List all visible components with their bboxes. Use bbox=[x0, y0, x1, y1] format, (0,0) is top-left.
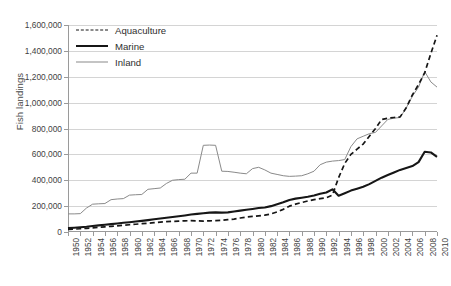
x-axis-tick-label: 1968 bbox=[183, 238, 192, 256]
x-axis-tickmark bbox=[105, 232, 106, 236]
x-axis-tickmark bbox=[117, 232, 118, 236]
x-axis-tick-label: 1952 bbox=[84, 238, 93, 256]
x-axis-tick-label: 1992 bbox=[330, 238, 339, 256]
y-axis-tick-label: 600,000 bbox=[0, 149, 62, 159]
series-line-inland bbox=[68, 72, 437, 214]
x-axis-tickmark bbox=[437, 232, 438, 236]
y-axis-tick-label: 0 bbox=[0, 227, 62, 237]
x-axis-tickmark bbox=[130, 232, 131, 236]
legend-item-marine: Marine bbox=[76, 38, 166, 54]
x-axis-tick-label: 1996 bbox=[355, 238, 364, 256]
x-axis-tick-label: 1962 bbox=[146, 238, 155, 256]
x-axis-tickmark bbox=[203, 232, 204, 236]
legend-swatch-inland-icon bbox=[76, 57, 108, 67]
fish-landings-chart: Fish landings 0200,000400,000600,000800,… bbox=[0, 0, 451, 286]
legend-label-marine: Marine bbox=[115, 41, 144, 52]
x-axis-tickmark bbox=[80, 232, 81, 236]
x-axis-tick-label: 1984 bbox=[281, 238, 290, 256]
x-axis-tickmark bbox=[154, 232, 155, 236]
x-axis-tickmark bbox=[191, 232, 192, 236]
x-axis-tickmark bbox=[425, 232, 426, 236]
x-axis-tick-label: 2010 bbox=[441, 238, 450, 256]
y-axis-tick-label: 1,000,000 bbox=[0, 98, 62, 108]
x-axis-tickmark bbox=[93, 232, 94, 236]
x-axis-tickmark bbox=[376, 232, 377, 236]
x-axis-tick-label: 1958 bbox=[121, 238, 130, 256]
x-axis-tick-label: 1998 bbox=[367, 238, 376, 256]
x-axis-tickmark bbox=[363, 232, 364, 236]
x-axis-tick-label: 1966 bbox=[170, 238, 179, 256]
x-axis-tick-label: 1986 bbox=[293, 238, 302, 256]
x-axis-tick-label: 1964 bbox=[158, 238, 167, 256]
y-axis-tick-label: 400,000 bbox=[0, 175, 62, 185]
x-axis-tickmark bbox=[302, 232, 303, 236]
x-axis-tick-label: 1976 bbox=[232, 238, 241, 256]
x-axis-tickmark bbox=[314, 232, 315, 236]
x-axis-tickmark bbox=[351, 232, 352, 236]
x-axis-tick-label: 1950 bbox=[72, 238, 81, 256]
legend-item-aquaculture: Aquaculture bbox=[76, 22, 166, 38]
x-axis-tickmark bbox=[339, 232, 340, 236]
x-axis-tickmark bbox=[289, 232, 290, 236]
x-axis-tickmark bbox=[240, 232, 241, 236]
x-axis-tickmark bbox=[388, 232, 389, 236]
x-axis-tick-label: 1972 bbox=[207, 238, 216, 256]
legend-label-aquaculture: Aquaculture bbox=[115, 25, 166, 36]
x-axis-tick-label: 1978 bbox=[244, 238, 253, 256]
x-axis-tickmark bbox=[166, 232, 167, 236]
x-axis-tickmark bbox=[68, 232, 69, 236]
x-axis-tick-label: 1974 bbox=[220, 238, 229, 256]
x-axis-tickmark bbox=[142, 232, 143, 236]
y-axis-tick-label: 1,200,000 bbox=[0, 72, 62, 82]
chart-legend: Aquaculture Marine Inland bbox=[76, 22, 166, 70]
legend-swatch-marine-icon bbox=[76, 41, 108, 51]
legend-label-inland: Inland bbox=[115, 57, 141, 68]
x-axis-tick-label: 2008 bbox=[429, 238, 438, 256]
y-axis-tick-label: 1,400,000 bbox=[0, 46, 62, 56]
legend-swatch-aquaculture-icon bbox=[76, 25, 108, 35]
x-axis-tickmark bbox=[412, 232, 413, 236]
x-axis-tick-label: 2006 bbox=[416, 238, 425, 256]
x-axis-tick-label: 1988 bbox=[306, 238, 315, 256]
x-axis-tick-label: 1960 bbox=[134, 238, 143, 256]
x-axis-tickmark bbox=[179, 232, 180, 236]
x-axis-tickmark bbox=[216, 232, 217, 236]
x-axis-tick-label: 1994 bbox=[343, 238, 352, 256]
x-axis-tick-label: 1956 bbox=[109, 238, 118, 256]
x-axis-tickmark bbox=[400, 232, 401, 236]
x-axis-tickmark bbox=[228, 232, 229, 236]
x-axis-tick-label: 1970 bbox=[195, 238, 204, 256]
x-axis-tick-label: 2004 bbox=[404, 238, 413, 256]
legend-item-inland: Inland bbox=[76, 54, 166, 70]
x-axis-tickmark bbox=[265, 232, 266, 236]
y-axis-tick-label: 200,000 bbox=[0, 201, 62, 211]
x-axis-tick-label: 2002 bbox=[392, 238, 401, 256]
x-axis-tickmark bbox=[277, 232, 278, 236]
y-axis-tick-label: 1,600,000 bbox=[0, 20, 62, 30]
x-axis-tick-label: 1982 bbox=[269, 238, 278, 256]
x-axis-tick-label: 1954 bbox=[97, 238, 106, 256]
x-axis-tick-label: 1980 bbox=[257, 238, 266, 256]
x-axis-tickmark bbox=[253, 232, 254, 236]
y-axis-tick-label: 800,000 bbox=[0, 124, 62, 134]
x-axis-tickmark bbox=[326, 232, 327, 236]
x-axis-tick-label: 2000 bbox=[380, 238, 389, 256]
x-axis-tick-label: 1990 bbox=[318, 238, 327, 256]
